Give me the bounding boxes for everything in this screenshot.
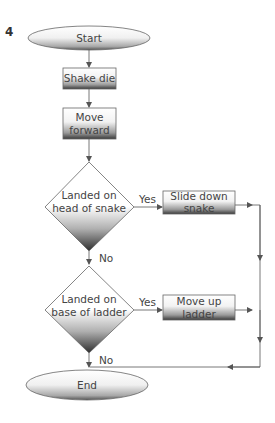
move-up-ladder-process: Move up ladder <box>163 295 235 320</box>
climb-line1: Move up <box>177 295 222 307</box>
shake-die-process: Shake die <box>63 68 116 89</box>
ladder-decision-line2: base of ladder <box>51 306 127 318</box>
ladder-decision-line1: Landed on <box>61 293 116 305</box>
snake-yes-label: Yes <box>138 193 156 205</box>
end-label: End <box>77 379 97 391</box>
start-terminator: Start <box>28 26 150 50</box>
slide-line2: snake <box>184 202 215 214</box>
shake-die-label: Shake die <box>64 72 115 84</box>
move-forward-process: Move forward <box>63 108 116 139</box>
ladder-no-label: No <box>99 354 113 366</box>
end-terminator: End <box>26 370 148 400</box>
start-label: Start <box>76 32 102 44</box>
slide-down-snake-process: Slide down snake <box>163 190 235 214</box>
snake-no-label: No <box>99 252 113 264</box>
move-forward-line2: forward <box>69 124 109 136</box>
move-forward-line1: Move <box>75 111 103 123</box>
return-line <box>90 205 260 367</box>
ladder-yes-label: Yes <box>138 296 156 308</box>
climb-line2: ladder <box>182 308 216 320</box>
snake-decision: Landed on head of snake <box>45 162 134 251</box>
slide-line1: Slide down <box>170 190 227 202</box>
snake-decision-line2: head of snake <box>52 202 126 214</box>
ladder-decision: Landed on base of ladder <box>45 266 134 353</box>
flowchart: 4 Start Shake die Move forward Landed <box>0 0 275 423</box>
snake-decision-line1: Landed on <box>61 189 116 201</box>
figure-number: 4 <box>5 25 13 39</box>
